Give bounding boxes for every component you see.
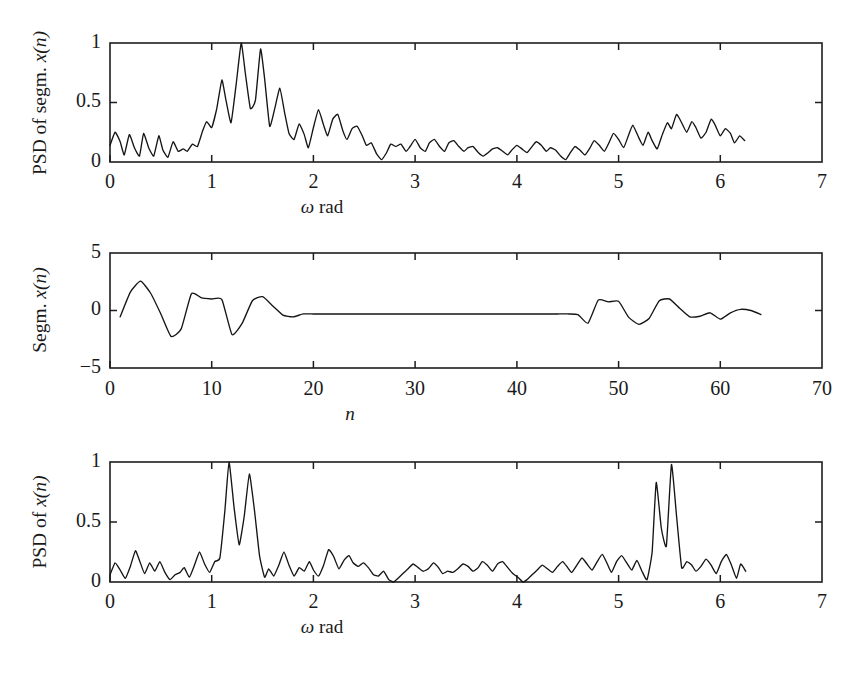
middle-signal-curve xyxy=(120,281,761,336)
svg-text:60: 60 xyxy=(710,377,730,399)
svg-text:7: 7 xyxy=(817,590,827,612)
svg-text:1: 1 xyxy=(207,590,217,612)
panel-bottom: PSD of x(n) xyxy=(29,449,827,638)
svg-text:10: 10 xyxy=(202,377,222,399)
svg-text:5: 5 xyxy=(614,590,624,612)
middle-y-axis-label: Segm. x(n) xyxy=(29,267,51,353)
svg-text:−5: −5 xyxy=(80,355,101,377)
svg-text:0: 0 xyxy=(105,170,115,192)
svg-text:0.5: 0.5 xyxy=(76,89,101,111)
svg-text:30: 30 xyxy=(405,377,425,399)
middle-x-axis-label: n xyxy=(345,403,355,424)
multi-panel-plot: PSD of segm. x(n) xyxy=(0,0,861,681)
svg-text:0: 0 xyxy=(91,297,101,319)
svg-text:0: 0 xyxy=(91,569,101,591)
bottom-x-axis-label: ω rad xyxy=(301,616,344,637)
top-x-tick-labels: 0 1 2 3 4 5 6 7 xyxy=(105,170,827,192)
svg-text:1: 1 xyxy=(91,30,101,52)
middle-x-tick-labels: 0 10 20 30 40 50 60 70 xyxy=(105,377,832,399)
bottom-axes-frame xyxy=(110,462,822,582)
svg-text:0.5: 0.5 xyxy=(76,509,101,531)
svg-text:3: 3 xyxy=(410,170,420,192)
svg-text:1: 1 xyxy=(207,170,217,192)
bottom-x-tick-labels: 0 1 2 3 4 5 6 7 xyxy=(105,590,827,612)
svg-text:40: 40 xyxy=(507,377,527,399)
middle-x-ticks xyxy=(110,253,720,368)
svg-text:4: 4 xyxy=(512,590,522,612)
top-axes-frame xyxy=(110,43,822,162)
bottom-y-tick-labels: 0 0.5 1 xyxy=(76,449,101,591)
bottom-psd-curve xyxy=(110,462,746,582)
svg-text:0: 0 xyxy=(91,149,101,171)
middle-axes-frame xyxy=(110,253,822,368)
bottom-x-ticks xyxy=(110,462,720,582)
top-psd-curve xyxy=(110,43,745,160)
panel-middle: Segm. x(n) 0 xyxy=(29,240,832,425)
svg-text:4: 4 xyxy=(512,170,522,192)
middle-y-tick-labels: −5 0 5 xyxy=(80,240,101,377)
top-x-axis-label: ω rad xyxy=(301,196,344,217)
svg-text:50: 50 xyxy=(609,377,629,399)
svg-text:7: 7 xyxy=(817,170,827,192)
svg-text:0: 0 xyxy=(105,377,115,399)
svg-text:5: 5 xyxy=(91,240,101,262)
svg-text:6: 6 xyxy=(715,170,725,192)
top-x-ticks xyxy=(110,43,720,162)
svg-text:1: 1 xyxy=(91,449,101,471)
svg-text:2: 2 xyxy=(308,590,318,612)
svg-text:3: 3 xyxy=(410,590,420,612)
bottom-y-axis-label: PSD of x(n) xyxy=(29,475,51,568)
figure-container: PSD of segm. x(n) xyxy=(0,0,861,681)
svg-text:70: 70 xyxy=(812,377,832,399)
svg-text:20: 20 xyxy=(303,377,323,399)
top-y-tick-labels: 0 0.5 1 xyxy=(76,30,101,171)
svg-text:0: 0 xyxy=(105,590,115,612)
svg-text:5: 5 xyxy=(614,170,624,192)
panel-top: PSD of segm. x(n) xyxy=(29,30,827,218)
svg-text:2: 2 xyxy=(308,170,318,192)
top-y-axis-label: PSD of segm. x(n) xyxy=(29,31,51,175)
svg-text:6: 6 xyxy=(715,590,725,612)
